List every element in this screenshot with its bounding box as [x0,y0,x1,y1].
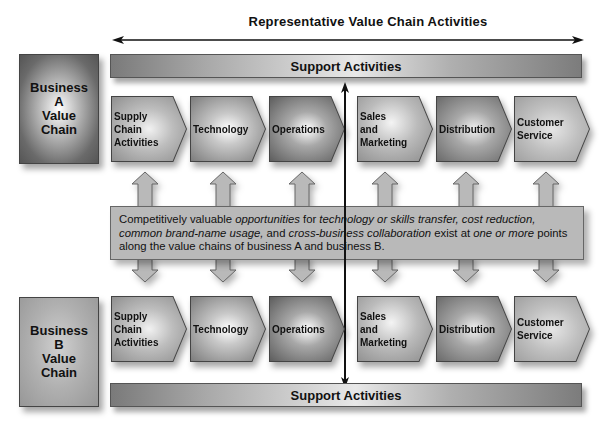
activity-b-technology: Technology [190,296,266,362]
activity-a-technology: Technology [190,96,266,162]
activity-b-supply-chain: Supply Chain Activities [111,296,187,362]
support-activities-bottom: Support Activities [110,383,582,407]
business-a-value-chain: Business A Value Chain [19,54,99,164]
activity-b-sales-marketing: Sales and Marketing [357,296,433,362]
business-a-line: Business [30,81,88,95]
activity-label: Distribution [439,123,495,136]
activity-label: Customer [517,116,564,129]
opportunity-segment-italic: cross-business collaboration [289,227,432,239]
business-b-line: Value [30,352,88,366]
activity-a-operations: Operations [269,96,345,162]
activity-a-distribution: Distribution [436,96,512,162]
activity-label: and [360,323,407,336]
activity-label: Marketing [360,136,407,149]
support-activities-bottom-label: Support Activities [291,388,402,403]
activity-label: Customer [517,316,564,329]
business-b-line: B [30,338,88,352]
business-a-line: A [30,95,88,109]
activity-label: Supply [114,310,158,323]
activity-label: Service [517,129,564,142]
opportunity-segment: for [300,213,319,225]
business-a-line: Value [30,109,88,123]
activity-b-distribution: Distribution [436,296,512,362]
activity-b-customer-service: Customer Service [514,296,590,362]
activity-label: Distribution [439,323,495,336]
activity-label: Sales [360,310,407,323]
activity-label: Chain [114,123,158,136]
activity-label: Sales [360,110,407,123]
activity-a-customer-service: Customer Service [514,96,590,162]
business-b-line: Chain [30,366,88,380]
business-a-line: Chain [30,123,88,137]
support-activities-top: Support Activities [110,54,582,78]
activity-a-supply-chain: Supply Chain Activities [111,96,187,162]
support-activities-top-label: Support Activities [291,59,402,74]
business-b-line: Business [30,324,88,338]
activity-a-sales-marketing: Sales and Marketing [357,96,433,162]
opportunity-segment: Competitively valuable [119,213,235,225]
activity-b-operations: Operations [269,296,345,362]
opportunity-segment-italic: opportunities [235,213,300,225]
opportunity-segment: and [263,227,288,239]
opportunity-segment-italic: one or more [473,227,534,239]
activity-label: Chain [114,323,158,336]
activity-label: Supply [114,110,158,123]
activity-label: Marketing [360,336,407,349]
activity-label: Activities [114,136,158,149]
activity-label: Activities [114,336,158,349]
activity-label: Operations [272,323,325,336]
opportunity-segment: exist at [431,227,473,239]
diagram-title: Representative Value Chain Activities [218,14,518,29]
activity-label: Operations [272,123,325,136]
activity-label: Technology [193,323,248,336]
activity-label: Technology [193,123,248,136]
horizontal-double-arrow-icon [112,36,584,44]
business-b-value-chain: Business B Value Chain [19,297,99,407]
activity-label: and [360,123,407,136]
activity-label: Service [517,329,564,342]
